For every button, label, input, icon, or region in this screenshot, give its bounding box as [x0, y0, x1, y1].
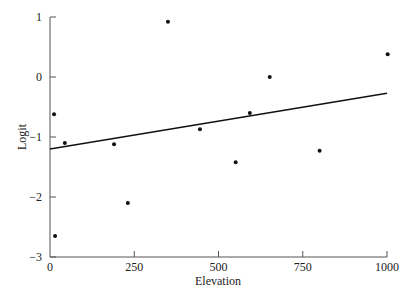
data-point — [198, 127, 202, 131]
x-tick-label: 250 — [125, 260, 143, 274]
data-point — [166, 20, 170, 24]
x-tick-label: 0 — [47, 260, 53, 274]
y-tick-label: 1 — [36, 10, 42, 24]
data-point — [126, 201, 130, 205]
data-point — [112, 142, 116, 146]
y-tick-label: −2 — [29, 190, 42, 204]
data-point — [234, 160, 238, 164]
data-point — [248, 111, 252, 115]
x-tick-label: 1000 — [375, 260, 399, 274]
chart-canvas: 10−1−2−302505007501000 Elevation Logit — [0, 0, 414, 300]
axes — [50, 17, 387, 257]
scatter-chart: 10−1−2−302505007501000 Elevation Logit — [0, 0, 414, 300]
y-tick-label: 0 — [36, 70, 42, 84]
y-tick-label: −1 — [29, 130, 42, 144]
axis-ticks: 10−1−2−302505007501000 — [29, 10, 399, 274]
fitted-line — [50, 93, 387, 149]
regression-line — [50, 93, 387, 149]
data-point — [318, 149, 322, 153]
data-point — [386, 52, 390, 56]
x-tick-label: 750 — [294, 260, 312, 274]
data-point — [53, 234, 57, 238]
y-tick-label: −3 — [29, 250, 42, 264]
x-tick-label: 500 — [210, 260, 228, 274]
x-axis-label: Elevation — [195, 274, 241, 288]
data-point — [63, 141, 67, 145]
y-axis-label: Logit — [15, 123, 29, 150]
data-point — [52, 112, 56, 116]
data-points — [52, 20, 390, 238]
data-point — [268, 75, 272, 79]
